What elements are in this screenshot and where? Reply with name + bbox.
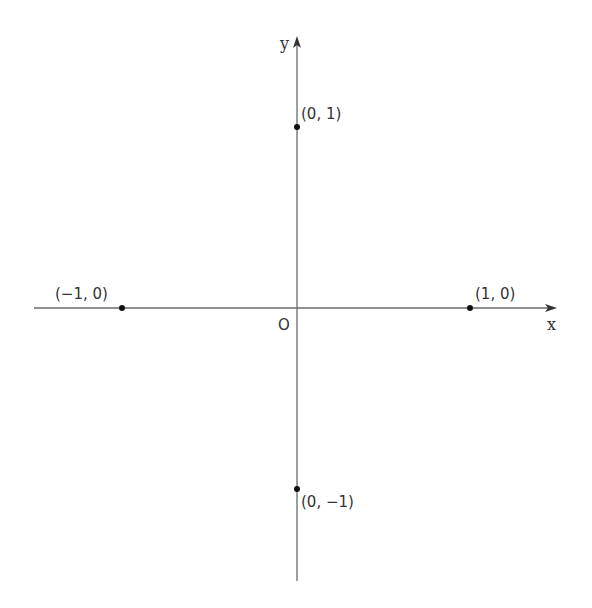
origin-label: O: [278, 316, 290, 334]
x-axis-label: x: [547, 315, 556, 334]
point-marker: [467, 305, 473, 311]
y-axis-label: y: [279, 34, 289, 53]
point-0-1: (0, 1): [294, 105, 341, 130]
point-label: (0, 1): [301, 105, 341, 123]
point-neg1-0: (−1, 0): [55, 285, 125, 311]
point-marker: [294, 486, 300, 492]
coordinate-plane-diagram: y x O (0, 1) (−1, 0) (1, 0) (0, −1): [0, 0, 592, 608]
point-1-0: (1, 0): [467, 285, 515, 311]
x-axis: [34, 304, 557, 312]
point-0-neg1: (0, −1): [294, 486, 354, 511]
point-label: (1, 0): [475, 285, 515, 303]
point-marker: [294, 124, 300, 130]
point-label: (−1, 0): [55, 285, 108, 303]
point-label: (0, −1): [301, 493, 354, 511]
point-marker: [119, 305, 125, 311]
